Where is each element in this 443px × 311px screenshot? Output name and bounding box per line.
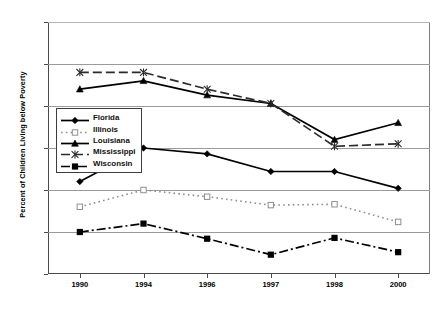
data-point-illinois-1990 (77, 204, 82, 209)
legend-label-florida: Florida (93, 112, 119, 123)
legend-label-mississippi: Mississippi (93, 146, 136, 157)
x-tick-label-1996: 1996 (177, 280, 237, 289)
x-tick-mark-1996 (207, 274, 208, 278)
legend-label-wisconsin: Wisconsin (93, 158, 132, 169)
data-point-florida-1997 (268, 168, 274, 174)
data-point-wisconsin-1998 (331, 235, 337, 241)
x-tick-mark-2000 (398, 274, 399, 278)
x-tick-mark-1990 (80, 274, 81, 278)
legend-label-illinois: Illinois (93, 124, 118, 135)
data-point-florida-2000 (395, 185, 401, 191)
x-tick-mark-1998 (335, 274, 336, 278)
legend-item-illinois[interactable]: Illinois (60, 123, 136, 134)
series-wisconsin (77, 221, 402, 258)
data-point-illinois-1996 (204, 194, 209, 199)
legend-item-wisconsin[interactable]: Wisconsin (60, 158, 136, 169)
x-tick-label-1994: 1994 (114, 280, 174, 289)
series-line-illinois (80, 190, 398, 222)
data-point-illinois-1994 (141, 187, 146, 192)
chart-root: Percent of Children Living below Poverty… (0, 0, 443, 311)
data-point-illinois-1997 (268, 202, 273, 207)
y-axis-title: Percent of Children Living below Poverty (18, 35, 27, 255)
x-tick-label-1998: 1998 (305, 280, 365, 289)
data-point-wisconsin-2000 (395, 249, 401, 255)
legend-item-mississippi[interactable]: Mississippi (60, 146, 136, 157)
data-point-florida-1996 (204, 151, 210, 157)
legend-item-louisiana[interactable]: Louisiana (60, 135, 136, 146)
chart-legend: FloridaIllinoisLouisianaMississippiWisco… (56, 108, 142, 173)
data-point-illinois-1998 (332, 202, 337, 207)
data-point-wisconsin-1997 (268, 252, 274, 258)
legend-item-florida[interactable]: Florida (60, 112, 136, 123)
x-tick-label-2000: 2000 (368, 280, 428, 289)
legend-label-louisiana: Louisiana (93, 135, 130, 146)
data-point-louisiana-2000 (395, 119, 402, 125)
y-tick-mark-10 (44, 274, 48, 275)
x-tick-label-1997: 1997 (241, 280, 301, 289)
data-point-illinois-2000 (395, 219, 400, 224)
legend-key-wisconsin-icon (60, 158, 90, 169)
data-point-florida-1998 (331, 168, 337, 174)
legend-key-louisiana-icon (60, 135, 90, 146)
data-point-florida-1990 (77, 178, 83, 184)
series-line-wisconsin (80, 224, 398, 255)
data-point-wisconsin-1994 (140, 221, 146, 227)
series-illinois (77, 187, 401, 224)
x-tick-mark-1997 (271, 274, 272, 278)
legend-key-florida-icon (60, 112, 90, 123)
x-tick-label-1990: 1990 (50, 280, 110, 289)
x-tick-mark-1994 (144, 274, 145, 278)
data-point-wisconsin-1990 (77, 229, 83, 235)
legend-key-illinois-icon (60, 124, 90, 135)
legend-key-mississippi-icon (60, 146, 90, 157)
data-point-wisconsin-1996 (204, 236, 210, 242)
